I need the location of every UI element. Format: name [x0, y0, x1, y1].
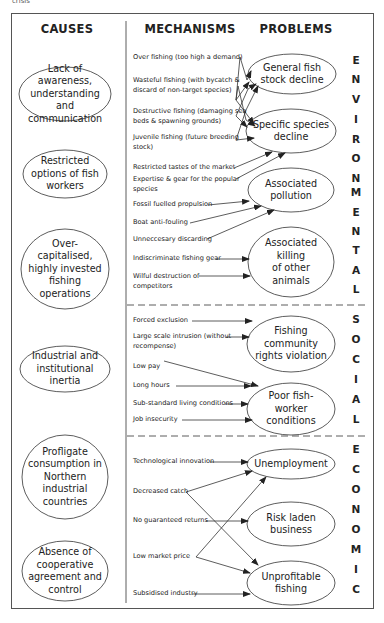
problem-specific-species-decline: Specific speciesdecline — [250, 117, 332, 145]
problem-poor-fish-worker-conditions: Poor fish-workerconditions — [252, 389, 330, 429]
mechanism-fossil-propulsion: Fossil fuelled propulsion — [133, 200, 212, 210]
cause-industrial-inertia: Industrial and institutional inertia — [22, 353, 108, 385]
mechanism-wilful-destruction: Wilful destruction ofcompetitors — [133, 272, 199, 291]
mechanism-decreased-catch: Decreased catch — [133, 487, 188, 497]
mechanism-indiscriminate-gear: Indiscriminate fishing gear — [133, 254, 221, 264]
cause-absence-of-agreement: Absence of cooperative agreement and con… — [28, 547, 102, 595]
mechanism-technological-innovation: Technological innovation — [133, 457, 214, 467]
problem-associated-pollution: Associatedpollution — [252, 176, 330, 204]
header-mechanisms: MECHANISMS — [140, 22, 240, 36]
cause-profligate-consumption: Profligate consumption in Northern indus… — [28, 444, 102, 510]
mechanism-destructive-fishing: Destructive fishing (damaging seabeds & … — [133, 107, 246, 126]
problem-associated-killing: Associatedkillingof otheranimals — [252, 236, 330, 288]
cause-lack-of-awareness: Lack of awareness, understanding and com… — [24, 72, 106, 116]
problem-unemployment: Unemployment — [252, 457, 330, 471]
mechanism-wasteful-fishing: Wasteful fishing (with bycatch &discard … — [133, 76, 240, 95]
mechanism-low-market-price: Low market price — [133, 552, 190, 562]
problem-fishing-community-rights-violation: Fishingcommunityrights violation — [250, 324, 332, 364]
mechanism-large-scale-intrusion: Large scale intrusion (withoutrecompense… — [133, 332, 231, 351]
mechanism-sub-standard-living: Sub-standard living conditions — [133, 399, 233, 409]
mechanism-expertise-gear: Expertise & gear for the popularspecies — [133, 175, 240, 194]
header-causes: CAUSES — [22, 22, 112, 36]
mechanism-low-pay: Low pay — [133, 362, 160, 372]
cause-over-capitalised: Over-capitalised, highly invested fishin… — [26, 239, 104, 299]
mechanism-subsidised-industry: Subsidised industry — [133, 589, 198, 599]
mechanism-no-guaranteed-returns: No guaranteed returns — [133, 516, 208, 526]
mechanism-boat-anti-fouling: Boat anti-fouling — [133, 218, 188, 228]
header-problems: PROBLEMS — [258, 22, 334, 36]
mechanism-over-fishing: Over fishing (too high a demand) — [133, 53, 243, 63]
problem-general-fish-stock-decline: General fishstock decline — [252, 60, 332, 88]
mechanism-unnecessary-discarding: Unneccesary discarding — [133, 235, 212, 245]
mechanism-juvenile-fishing: Juvenile fishing (future breedingstock) — [133, 133, 239, 152]
problem-unprofitable-fishing: Unprofitablefishing — [252, 569, 330, 597]
mechanism-job-insecurity: Job insecurity — [133, 415, 178, 425]
problem-risk-laden-business: Risk ladenbusiness — [252, 510, 330, 538]
mechanism-long-hours: Long hours — [133, 381, 170, 391]
mechanism-forced-exclusion: Forced exclusion — [133, 316, 188, 326]
mechanism-restricted-tastes: Restricted tastes of the market — [133, 163, 235, 173]
cause-restricted-options: Restricted options of fish workers — [30, 154, 100, 194]
